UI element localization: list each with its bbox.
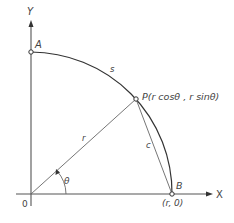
radius-line <box>31 99 136 194</box>
arc-length-label: s <box>110 64 115 74</box>
point-a-marker <box>29 50 33 54</box>
origin-label: 0 <box>22 199 28 209</box>
point-a-label: A <box>34 39 42 50</box>
y-axis: Y <box>27 6 34 206</box>
quarter-circle-diagram: Y X 0 θ A P(r cosθ , r sinθ) B (r, 0) s … <box>0 0 234 223</box>
y-axis-label: Y <box>27 6 34 17</box>
y-axis-arrow-icon <box>29 20 34 27</box>
point-p-marker <box>134 97 138 101</box>
angle-label: θ <box>64 176 70 186</box>
point-p-label: P(r cosθ , r sinθ) <box>142 91 219 102</box>
quarter-circle-arc <box>31 52 172 194</box>
point-b-coord-label: (r, 0) <box>162 198 183 208</box>
point-b-label: B <box>176 180 183 191</box>
chord-label: c <box>146 140 151 150</box>
x-axis-arrow-icon <box>206 192 213 197</box>
x-axis-label: X <box>216 189 223 200</box>
radius-label: r <box>82 133 86 143</box>
point-b-marker <box>170 192 174 196</box>
chord-line <box>136 99 172 194</box>
x-axis: X <box>16 189 223 200</box>
